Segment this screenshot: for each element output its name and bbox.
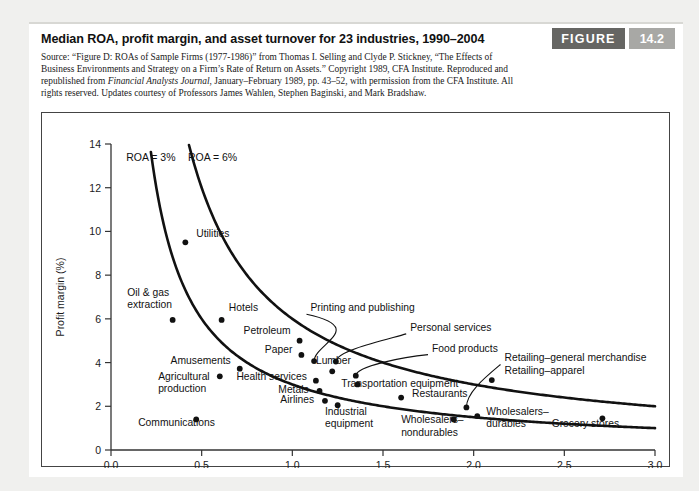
data-point[interactable] [329, 368, 335, 374]
data-point-label-line: Grocery stores [552, 418, 620, 429]
data-point-label: Hotels [229, 302, 258, 313]
y-tick-label: 0 [95, 444, 101, 456]
y-axis-title: Profit margin (%) [54, 258, 66, 337]
data-point-label-line: Airlines [280, 394, 314, 405]
roa-curve-label-2: ROA = 6% [188, 151, 237, 163]
data-point-label-line: Industrial [325, 406, 367, 417]
data-point-label-line: Communications [138, 417, 215, 428]
data-point-label: Personal services [410, 322, 491, 333]
x-tick-label: 0.0 [104, 459, 119, 468]
data-point-label-line: Wholesalers– [486, 406, 549, 417]
figure-title: Median ROA, profit margin, and asset tur… [41, 32, 484, 46]
data-point[interactable] [311, 358, 317, 364]
y-tick-label: 2 [95, 400, 101, 412]
data-point[interactable] [333, 359, 339, 365]
x-tick-label: 1.0 [285, 459, 300, 468]
data-point-label-line: equipment [325, 418, 373, 429]
figure-source-note: Source: “Figure D: ROAs of Sample Firms … [41, 51, 521, 99]
figure-page: Median ROA, profit margin, and asset tur… [0, 0, 699, 491]
data-point-label: Retailing–apparel [504, 365, 584, 376]
x-tick-label: 1.5 [376, 459, 391, 468]
data-point-label: Oil & gasextraction [127, 287, 172, 310]
data-point-label-line: Hotels [229, 302, 258, 313]
page-left-margin [0, 0, 29, 491]
data-point-label-line: extraction [127, 299, 172, 310]
data-point-label-line: Retailing–general merchandise [504, 352, 646, 363]
data-point[interactable] [297, 338, 303, 344]
data-point-label-line: Paper [265, 344, 293, 355]
x-tick-label: 2.5 [557, 459, 572, 468]
data-point-label: Restaurants [412, 388, 468, 399]
data-point-label: Airlines [280, 394, 314, 405]
data-point[interactable] [182, 239, 188, 245]
figure-badge-number: 14.2 [629, 28, 675, 49]
data-point-label-line: production [158, 383, 206, 394]
data-point[interactable] [322, 398, 328, 404]
y-tick-label: 8 [95, 269, 101, 281]
source-journal-name: Financial Analysts Journal [108, 76, 210, 86]
data-point[interactable] [299, 352, 305, 358]
data-point-label: Utilities [196, 228, 229, 239]
data-point[interactable] [474, 413, 480, 419]
data-point-label: Paper [265, 344, 293, 355]
figure-badge: FIGURE 14.2 [552, 28, 675, 49]
data-point-label: Retailing–general merchandise [504, 352, 646, 363]
data-point-label-line: Wholesalers– [401, 414, 464, 425]
data-point-label: Industrialequipment [325, 406, 373, 429]
data-point[interactable] [398, 395, 404, 401]
data-point-label-line: Utilities [196, 228, 229, 239]
data-point-label: Petroleum [244, 325, 291, 336]
data-point-label: Food products [432, 343, 498, 354]
data-point-label: Printing and publishing [310, 302, 414, 313]
y-tick-label: 4 [95, 357, 101, 369]
data-point-label: Grocery stores [552, 418, 620, 429]
data-point-label: Wholesalers–nondurables [401, 414, 464, 437]
data-point-label-line: Agricultural [158, 371, 210, 382]
data-point[interactable] [170, 317, 176, 323]
data-point-label: Agriculturalproduction [158, 371, 210, 394]
scatter-chart: 024681012140.00.51.01.52.02.53.0Asset tu… [42, 113, 671, 468]
y-tick-label: 10 [89, 225, 101, 237]
data-point-label-line: Oil & gas [127, 287, 169, 298]
x-tick-label: 2.0 [466, 459, 481, 468]
y-tick-label: 6 [95, 313, 101, 325]
y-tick-label: 14 [89, 138, 101, 150]
data-point-label-line: durables [486, 418, 526, 429]
data-point-label: Communications [138, 417, 215, 428]
x-tick-label: 3.0 [648, 459, 663, 468]
data-point-label: Health services [236, 371, 306, 382]
data-point-label-line: Amusements [171, 355, 231, 366]
data-point[interactable] [219, 317, 225, 323]
data-point-label-line: Petroleum [244, 325, 291, 336]
x-tick-label: 0.5 [194, 459, 209, 468]
data-point[interactable] [489, 377, 495, 383]
page-top-margin [0, 0, 699, 22]
data-point[interactable] [464, 404, 470, 410]
figure-card: Median ROA, profit margin, and asset tur… [29, 22, 683, 477]
roa-curve-label-1: ROA = 3% [126, 151, 175, 163]
roa-curve-2 [189, 145, 655, 406]
chart-plot-area: 024681012140.00.51.01.52.02.53.0Asset tu… [41, 112, 670, 467]
data-point-label-line: Food products [432, 343, 498, 354]
data-point[interactable] [313, 378, 319, 384]
data-point-label-line: Restaurants [412, 388, 468, 399]
page-bottom-margin [0, 477, 699, 491]
data-point-label-line: nondurables [401, 427, 458, 438]
data-point-label-line: Printing and publishing [310, 302, 414, 313]
y-tick-label: 12 [89, 182, 101, 194]
data-point-label: Amusements [171, 355, 231, 366]
data-point-label-line: Health services [236, 371, 306, 382]
page-right-margin [683, 0, 699, 491]
data-point-label-line: Retailing–apparel [504, 365, 584, 376]
data-point[interactable] [217, 373, 223, 379]
data-point[interactable] [317, 388, 323, 394]
data-point-label: Wholesalers–durables [486, 406, 549, 429]
figure-badge-label: FIGURE [552, 28, 624, 49]
data-point-label-line: Personal services [410, 322, 491, 333]
